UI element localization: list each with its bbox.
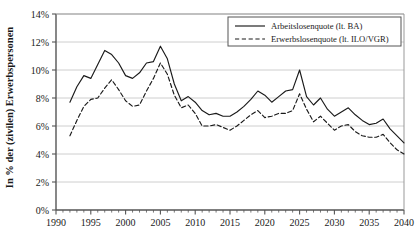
- x-axis-tick-labels: 1990199520002005201020152020202520302035…: [46, 217, 414, 228]
- y-tick-label: 14%: [31, 9, 49, 20]
- y-tick-label: 0%: [36, 205, 49, 216]
- y-tick-label: 12%: [31, 37, 49, 48]
- x-tick-label: 2000: [116, 217, 136, 228]
- x-tick-label: 2020: [255, 217, 275, 228]
- legend-box: Arbeitslosenquote (lt. BA)Erwerbslosenqu…: [228, 17, 401, 46]
- x-tick-label: 2040: [394, 217, 414, 228]
- y-tick-label: 10%: [31, 65, 49, 76]
- y-tick-label: 4%: [36, 149, 49, 160]
- y-axis-tick-labels: 0%2%4%6%8%10%12%14%: [31, 9, 49, 216]
- series-line-1: [70, 46, 404, 143]
- line-chart-svg: 0%2%4%6%8%10%12%14% 19901995200020052010…: [0, 0, 417, 244]
- x-tick-label: 1990: [46, 217, 66, 228]
- x-tick-label: 2010: [185, 217, 205, 228]
- legend-label-2: Erwerbslosenquote (lt. ILO/VGR): [271, 34, 389, 44]
- plot-area: 0%2%4%6%8%10%12%14% 19901995200020052010…: [0, 0, 417, 244]
- y-tick-label: 6%: [36, 121, 49, 132]
- y-tick-label: 2%: [36, 177, 49, 188]
- x-tick-label: 2030: [324, 217, 344, 228]
- y-tick-label: 8%: [36, 93, 49, 104]
- x-tick-label: 2015: [220, 217, 240, 228]
- x-tick-label: 2005: [150, 217, 170, 228]
- series-line-2: [70, 63, 404, 154]
- legend-label-1: Arbeitslosenquote (lt. BA): [271, 21, 363, 31]
- x-tick-label: 2025: [290, 217, 310, 228]
- data-series: [70, 46, 404, 154]
- x-tick-label: 1995: [81, 217, 101, 228]
- chart-container: In % der (zivilen) Erwerbspersonen 0%2%4…: [0, 0, 417, 244]
- x-tick-label: 2035: [359, 217, 379, 228]
